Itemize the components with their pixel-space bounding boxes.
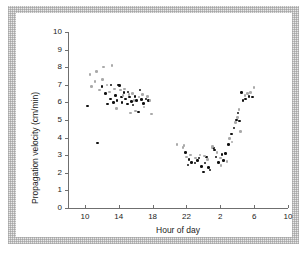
data-point xyxy=(111,64,114,67)
data-point xyxy=(140,98,143,101)
data-point xyxy=(102,66,105,69)
data-point xyxy=(112,101,115,104)
y-tick-label: 4 xyxy=(44,134,62,142)
y-tick-label: 7 xyxy=(44,81,62,89)
x-tick-label: 2 xyxy=(210,213,230,221)
y-tick-label: 2 xyxy=(44,169,62,177)
data-point xyxy=(121,101,124,104)
data-point xyxy=(98,89,101,92)
x-tick xyxy=(186,205,187,208)
data-point xyxy=(146,95,149,98)
data-point xyxy=(209,169,212,172)
data-point xyxy=(236,116,239,119)
data-point xyxy=(113,88,116,91)
y-axis-label: Propagation velocity (cm/min) xyxy=(30,92,40,204)
y-tick-label: 8 xyxy=(44,63,62,71)
data-point xyxy=(249,91,252,94)
data-point xyxy=(251,96,254,99)
data-point xyxy=(89,73,92,76)
data-point xyxy=(215,156,218,159)
data-point xyxy=(227,143,230,146)
y-tick xyxy=(65,173,68,174)
data-point xyxy=(134,95,137,98)
data-point xyxy=(184,151,187,154)
y-tick-label: 0 xyxy=(44,204,62,212)
data-point xyxy=(104,92,107,95)
y-tick-label: 5 xyxy=(44,116,62,124)
x-tick-label: 18 xyxy=(143,213,163,221)
data-point xyxy=(219,157,222,160)
data-point xyxy=(234,121,237,124)
y-tick-label: 9 xyxy=(44,46,62,54)
data-point xyxy=(109,98,112,101)
data-point xyxy=(116,99,119,102)
data-point xyxy=(150,113,153,116)
x-tick xyxy=(254,205,255,208)
data-point xyxy=(139,89,142,92)
y-tick-label: 3 xyxy=(44,151,62,159)
data-point xyxy=(238,120,241,123)
data-point xyxy=(114,94,117,97)
x-tick-label: 14 xyxy=(109,213,129,221)
data-point xyxy=(226,160,229,163)
data-point xyxy=(200,165,203,168)
data-point xyxy=(194,162,197,165)
data-point xyxy=(135,99,138,102)
data-point xyxy=(126,103,129,106)
x-tick xyxy=(220,205,221,208)
y-tick xyxy=(65,190,68,191)
x-tick-label: 6 xyxy=(244,213,264,221)
data-point xyxy=(222,159,225,162)
data-point xyxy=(143,106,146,109)
data-point xyxy=(240,91,243,94)
y-tick-label: 1 xyxy=(44,186,62,194)
data-point xyxy=(86,105,89,108)
data-point xyxy=(122,94,125,97)
y-tick xyxy=(65,50,68,51)
data-point xyxy=(101,78,104,81)
data-point xyxy=(228,137,231,140)
y-tick xyxy=(65,208,68,209)
data-point xyxy=(106,103,109,106)
data-point xyxy=(124,98,127,101)
data-point xyxy=(224,152,227,155)
data-point xyxy=(216,151,219,154)
data-point xyxy=(206,158,209,161)
y-tick-label: 10 xyxy=(44,28,62,36)
data-point xyxy=(196,159,199,162)
y-tick xyxy=(65,67,68,68)
y-tick xyxy=(65,155,68,156)
data-point xyxy=(238,108,241,111)
x-axis-label: Hour of day xyxy=(68,225,288,235)
data-point xyxy=(246,92,249,95)
data-point xyxy=(183,144,186,147)
data-point xyxy=(176,143,179,146)
data-point xyxy=(244,98,247,101)
data-point xyxy=(128,93,131,96)
y-tick xyxy=(65,138,68,139)
data-point xyxy=(119,89,122,92)
data-point xyxy=(185,156,188,159)
y-tick xyxy=(65,85,68,86)
data-point xyxy=(123,88,126,91)
data-point xyxy=(90,85,93,88)
x-tick xyxy=(153,205,154,208)
data-point xyxy=(96,142,99,145)
data-point xyxy=(131,92,134,95)
y-tick xyxy=(65,102,68,103)
data-point xyxy=(137,111,140,114)
data-point xyxy=(204,162,207,165)
data-point xyxy=(187,164,190,167)
x-tick-label: 10 xyxy=(278,213,298,221)
data-point xyxy=(230,133,233,136)
data-point xyxy=(194,157,197,160)
data-point xyxy=(211,145,214,148)
data-point xyxy=(132,104,135,107)
data-point xyxy=(203,155,206,158)
data-point xyxy=(94,80,97,83)
x-tick xyxy=(288,205,289,208)
data-point xyxy=(202,171,205,174)
data-point xyxy=(149,99,152,102)
data-point xyxy=(108,91,111,94)
scatter-plot: 012345678910 101418222610 Hour of day Pr… xyxy=(0,0,307,257)
